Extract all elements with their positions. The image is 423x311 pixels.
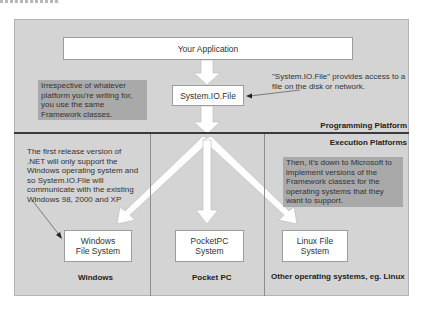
down-arrow-icon — [194, 106, 220, 134]
box-label: PocketPC System — [188, 236, 231, 256]
note-text: The first release version of .NET will o… — [27, 147, 138, 204]
box-label: Windows File System — [73, 236, 123, 256]
system-io-file-box: System.IO.File — [172, 85, 244, 106]
box-label: Linux File System — [283, 236, 347, 256]
pointer-line — [246, 90, 300, 99]
pocketpc-system-box: PocketPC System — [175, 230, 244, 262]
first-release-note: The first release version of .NET will o… — [27, 147, 139, 205]
down-arrow-icon — [196, 140, 218, 224]
box-label: System.IO.File — [180, 91, 236, 101]
note-text: Irrespective of whatever platform you're… — [41, 81, 132, 119]
execution-platforms-label: Execution Platforms — [330, 138, 407, 147]
windows-file-system-box: Windows File System — [64, 230, 132, 262]
microsoft-implement-note: Then, it's down to Microsoft to implemen… — [283, 157, 403, 207]
programming-platform-label: Programming Platform — [320, 121, 407, 130]
framework-classes-note: Irrespective of whatever platform you're… — [38, 80, 147, 120]
system-io-access-note: "System.IO.File" provides access to a fi… — [272, 72, 406, 91]
linux-file-system-box: Linux File System — [282, 230, 348, 262]
windows-column-label: Windows — [78, 273, 113, 282]
your-application-box: Your Application — [63, 37, 353, 60]
column-divider — [264, 134, 265, 296]
note-text: Then, it's down to Microsoft to implemen… — [286, 158, 392, 205]
other-os-column-label: Other operating systems, eg. Linux — [271, 272, 405, 281]
platform-divider — [14, 132, 409, 134]
down-arrow-icon — [194, 60, 220, 85]
pointer-line — [32, 200, 62, 239]
column-divider — [150, 134, 151, 296]
note-text: "System.IO.File" provides access to a fi… — [272, 72, 405, 91]
box-label: Your Application — [178, 44, 239, 54]
pocketpc-column-label: Pocket PC — [192, 273, 232, 282]
